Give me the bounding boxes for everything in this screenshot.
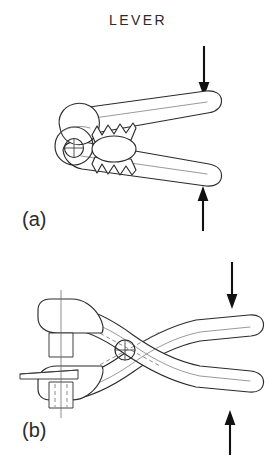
panel-b-label: (b) [22, 419, 46, 441]
panel-a-group: (a) [22, 46, 222, 231]
panel-b-bottom-force-arrow [225, 410, 236, 455]
panel-a-bottom-force-arrow [198, 186, 209, 231]
figure-title: LEVER [109, 12, 167, 28]
lever-figure: LEVER [0, 0, 276, 463]
panel-a-pivot-marker [65, 139, 84, 158]
panel-a-workpiece [92, 136, 136, 162]
panel-b-pivot-marker [115, 340, 135, 360]
lever-diagram-canvas: LEVER [0, 0, 276, 463]
panel-a-lower-handle [63, 141, 222, 186]
panel-b-top-force-arrow [227, 262, 238, 309]
panel-a-top-force-arrow [199, 46, 210, 97]
panel-b-upper-jaw [38, 299, 103, 333]
panel-b-group: (b) [20, 262, 264, 455]
panel-a-label: (a) [22, 208, 46, 230]
